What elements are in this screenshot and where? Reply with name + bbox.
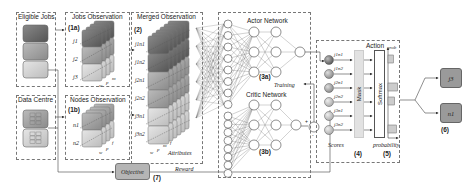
row-label: -: [312, 133, 314, 138]
objective-step: (7): [153, 175, 161, 182]
row-label: m: [112, 76, 116, 81]
merged-observation-title: Merged Observation: [137, 14, 196, 21]
row-label: n1: [73, 122, 79, 128]
scores-label: Scores: [328, 142, 344, 148]
output-node-label: n1: [448, 110, 455, 117]
row-label: j2n1: [334, 80, 343, 85]
row-label: +: [305, 119, 308, 124]
attributes-axis-label: Attributes: [168, 150, 192, 156]
row-label: j3n2: [135, 132, 145, 138]
softmax-box: Softmax: [374, 50, 385, 138]
eligible-jobs-panel: [16, 12, 56, 87]
softmax-label: Softmax: [377, 83, 383, 105]
row-label: j1n2: [334, 66, 343, 71]
row-label: w: [99, 83, 102, 88]
row-label: j3n2: [334, 122, 343, 127]
actor-network-title: Actor Network: [247, 18, 288, 25]
row-label: j3: [73, 74, 78, 80]
reward-label: Reward: [175, 166, 193, 172]
row-label: p: [157, 147, 160, 152]
row-label: j3n1: [135, 114, 145, 120]
row-label: j3n1: [334, 108, 343, 113]
row-label: j1: [73, 38, 78, 44]
row-label: m: [163, 143, 167, 148]
data-centre-panel: [16, 95, 56, 160]
nodes-observation-step: (1b): [68, 107, 80, 114]
action-title: Action: [366, 43, 384, 50]
mask-step: (4): [354, 151, 362, 158]
output-node-box: n1: [440, 103, 462, 123]
row-label: j2n2: [135, 96, 145, 102]
row-label: p: [106, 146, 109, 151]
output-job-label: j3: [448, 75, 453, 82]
row-label: f: [112, 140, 113, 145]
mask-label: Mask: [356, 87, 362, 101]
probability-axis-label: probability: [373, 142, 399, 148]
probability-y-label: prob: [387, 45, 396, 50]
merged-observation-panel: [131, 12, 203, 164]
row-label: j1n1: [135, 42, 145, 48]
probability-step: (5): [383, 151, 391, 158]
training-label: Training: [274, 82, 295, 88]
row-label: f: [170, 140, 171, 145]
row-label: j2n2: [334, 94, 343, 99]
nodes-observation-title: Nodes Observation: [70, 97, 126, 104]
objective-box: Objective: [115, 163, 150, 180]
output-job-box: j3: [440, 68, 462, 88]
jobs-observation-step: (1a): [68, 25, 80, 32]
output-step: (6): [441, 127, 449, 134]
critic-network-step: (3b): [259, 149, 271, 156]
row-label: w: [150, 150, 153, 155]
eligible-jobs-title: Eligible Jobs: [18, 14, 55, 21]
row-label: n2: [73, 140, 79, 146]
data-centre-title: Data Centre: [18, 97, 53, 104]
merged-observation-step: (2): [134, 27, 142, 34]
row-label: w: [99, 150, 102, 155]
objective-label: Objective: [121, 169, 144, 175]
drl-scheduler-diagram: Eligible Jobs Data Centre Jobs Observati…: [0, 0, 474, 190]
row-label: j2n1: [135, 78, 145, 84]
critic-network-title: Critic Network: [246, 92, 286, 99]
mask-column: Mask: [354, 50, 364, 138]
row-label: p: [106, 80, 109, 85]
jobs-observation-title: Jobs Observation: [72, 14, 123, 21]
row-label: j1n2: [135, 60, 145, 66]
row-label: j1n1: [334, 52, 343, 57]
actor-network-step: (3a): [259, 74, 271, 81]
row-label: j2: [73, 56, 78, 62]
